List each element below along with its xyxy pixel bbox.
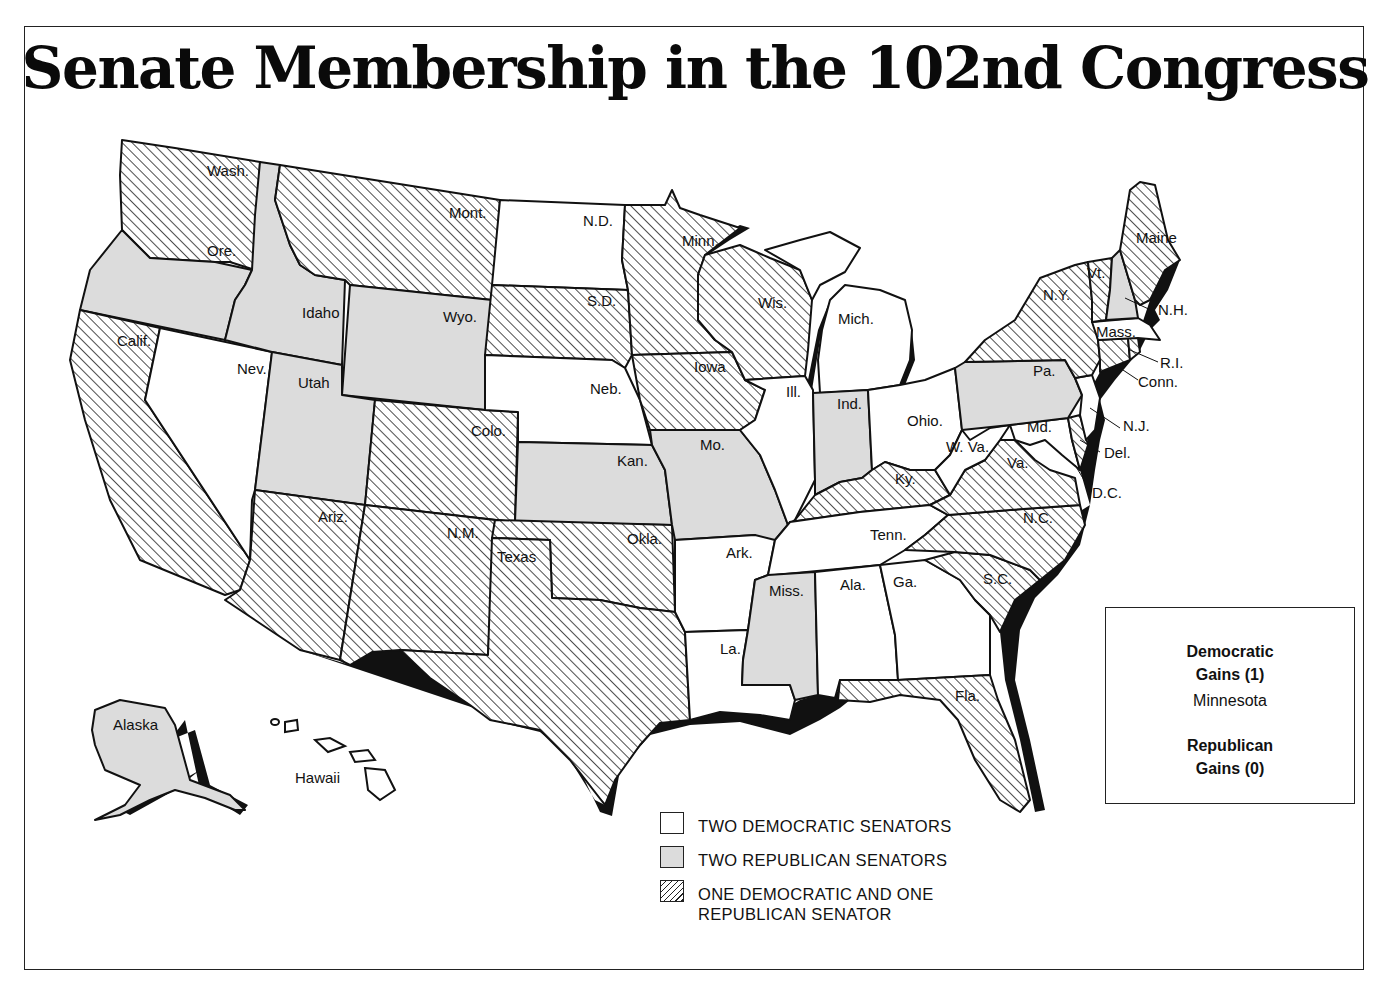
gains-box: Democratic Gains (1) Minnesota Republica… (1105, 607, 1355, 804)
svg-text:N.C.: N.C. (1023, 509, 1053, 526)
svg-text:Ala.: Ala. (840, 576, 866, 593)
svg-text:Idaho: Idaho (302, 304, 340, 321)
svg-text:Conn.: Conn. (1138, 373, 1178, 390)
svg-text:Okla.: Okla. (627, 530, 662, 547)
svg-text:Ind.: Ind. (837, 395, 862, 412)
svg-text:Kan.: Kan. (617, 452, 648, 469)
svg-text:Tenn.: Tenn. (870, 526, 907, 543)
svg-text:Mo.: Mo. (700, 436, 725, 453)
svg-text:Del.: Del. (1104, 444, 1131, 461)
state-kan[interactable] (515, 442, 672, 525)
state-ny[interactable] (965, 262, 1100, 378)
svg-text:S.D.: S.D. (587, 292, 616, 309)
svg-text:Ga.: Ga. (893, 573, 917, 590)
svg-text:Maine: Maine (1136, 229, 1177, 246)
svg-text:N.M.: N.M. (447, 524, 479, 541)
svg-text:N.J.: N.J. (1123, 417, 1150, 434)
legend-item-split: ONE DEMOCRATIC AND ONE REPUBLICAN SENATO… (660, 880, 952, 924)
svg-text:Ore.: Ore. (207, 242, 236, 259)
legend-item-two-rep: TWO REPUBLICAN SENATORS (660, 846, 952, 870)
svg-text:Colo.: Colo. (471, 422, 506, 439)
svg-text:Md.: Md. (1027, 418, 1052, 435)
svg-text:Pa.: Pa. (1033, 362, 1056, 379)
state-wyo[interactable] (342, 285, 492, 410)
svg-text:S.C.: S.C. (983, 570, 1012, 587)
svg-text:Nev.: Nev. (237, 360, 267, 377)
democratic-gains-heading: Democratic (1106, 640, 1354, 663)
svg-text:Iowa: Iowa (694, 358, 726, 375)
state-hawaii[interactable] (271, 719, 395, 800)
svg-text:Wis.: Wis. (758, 294, 787, 311)
svg-text:W. Va.: W. Va. (946, 438, 989, 455)
svg-text:Vt.: Vt. (1087, 264, 1105, 281)
svg-text:Alaska: Alaska (113, 716, 159, 733)
svg-text:Mich.: Mich. (838, 310, 874, 327)
svg-text:N.H.: N.H. (1158, 301, 1188, 318)
svg-text:D.C.: D.C. (1092, 484, 1122, 501)
svg-text:Neb.: Neb. (590, 380, 622, 397)
svg-text:Fla.: Fla. (955, 687, 980, 704)
map-legend: TWO DEMOCRATIC SENATORS TWO REPUBLICAN S… (660, 812, 952, 934)
legend-swatch-hatched (660, 880, 684, 902)
svg-text:Utah: Utah (298, 374, 330, 391)
svg-text:Calif.: Calif. (117, 332, 151, 349)
republican-gains-heading: Republican (1106, 734, 1354, 757)
republican-gains-count: Gains (0) (1106, 757, 1354, 780)
svg-text:Wyo.: Wyo. (443, 308, 477, 325)
svg-text:N.Y.: N.Y. (1043, 286, 1070, 303)
svg-text:Ariz.: Ariz. (318, 508, 348, 525)
svg-text:R.I.: R.I. (1160, 354, 1183, 371)
svg-text:Mass.: Mass. (1096, 323, 1136, 340)
state-colo[interactable] (365, 400, 518, 522)
state-ri[interactable] (1128, 338, 1140, 360)
svg-text:Va.: Va. (1007, 454, 1028, 471)
svg-text:Mont.: Mont. (449, 204, 487, 221)
svg-text:La.: La. (720, 640, 741, 657)
state-pa[interactable] (955, 360, 1082, 430)
svg-text:Miss.: Miss. (769, 582, 804, 599)
legend-swatch-gray (660, 846, 684, 868)
legend-item-two-dem: TWO DEMOCRATIC SENATORS (660, 812, 952, 836)
svg-text:Minn.: Minn. (682, 232, 719, 249)
svg-text:Ark.: Ark. (726, 544, 753, 561)
svg-text:Ill.: Ill. (786, 383, 801, 400)
legend-swatch-white (660, 812, 684, 834)
state-fla[interactable] (838, 675, 1030, 812)
svg-text:Hawaii: Hawaii (295, 769, 340, 786)
svg-text:Ohio.: Ohio. (907, 412, 943, 429)
svg-text:Wash.: Wash. (207, 162, 249, 179)
svg-text:N.D.: N.D. (583, 212, 613, 229)
democratic-gains-states: Minnesota (1106, 689, 1354, 712)
democratic-gains-count: Gains (1) (1106, 663, 1354, 686)
svg-text:Ky.: Ky. (895, 470, 916, 487)
svg-text:Texas: Texas (497, 548, 536, 565)
